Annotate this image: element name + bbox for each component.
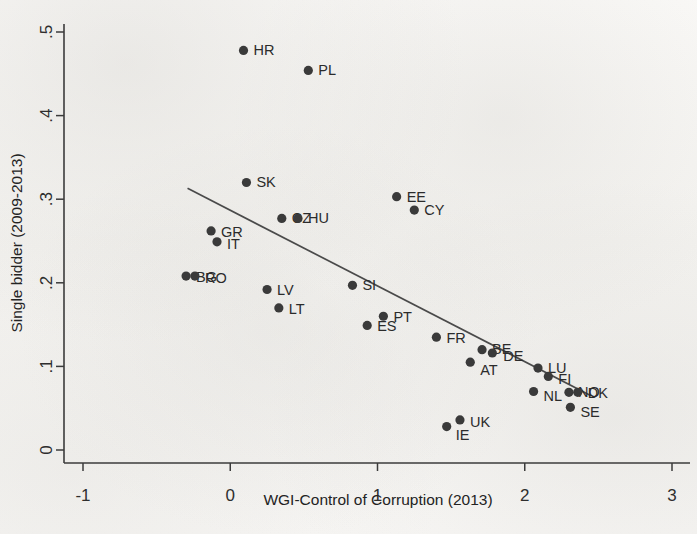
- data-point-label-ie: IE: [456, 427, 470, 443]
- data-point-at[interactable]: [466, 358, 475, 367]
- data-point-label-fr: FR: [446, 330, 465, 346]
- data-point-label-lv: LV: [277, 282, 294, 298]
- data-point-label-pl: PL: [318, 62, 336, 78]
- data-point-label-uk: UK: [470, 414, 490, 430]
- data-point-label-at: AT: [480, 362, 498, 378]
- data-point-be[interactable]: [477, 345, 486, 354]
- data-point-label-si: SI: [362, 277, 376, 293]
- data-point-uk[interactable]: [455, 415, 464, 424]
- y-tick-label: .5: [37, 25, 56, 39]
- data-point-lu[interactable]: [533, 363, 542, 372]
- data-point-es[interactable]: [363, 321, 372, 330]
- y-tick-label: .4: [37, 109, 56, 123]
- plot-canvas: 0.1.2.3.4.5-10123WGI-Control of Corrupti…: [0, 0, 697, 534]
- y-tick-label: .1: [37, 359, 56, 373]
- data-point-label-dk: DK: [588, 385, 608, 401]
- data-point-label-ro: RO: [205, 270, 227, 286]
- data-point-fi[interactable]: [544, 372, 553, 381]
- data-point-pl[interactable]: [304, 66, 313, 75]
- data-point-label-hu: HU: [308, 210, 329, 226]
- data-point-label-nl: NL: [544, 388, 563, 404]
- x-tick-label: 2: [520, 486, 529, 505]
- y-tick-label: .2: [37, 276, 56, 290]
- data-point-gr[interactable]: [207, 226, 216, 235]
- data-point-label-hr: HR: [254, 42, 275, 58]
- data-point-ro[interactable]: [190, 272, 199, 281]
- data-point-label-de: DE: [503, 348, 523, 364]
- data-point-label-it: IT: [227, 236, 240, 252]
- data-point-it[interactable]: [212, 237, 221, 246]
- data-point-label-sk: SK: [256, 174, 276, 190]
- x-axis-title: WGI-Control of Corruption (2013): [263, 491, 492, 508]
- x-tick-label: 0: [226, 486, 235, 505]
- data-point-label-fi: FI: [558, 371, 571, 387]
- y-axis-title: Single bidder (2009-2013): [8, 153, 25, 332]
- data-point-sk[interactable]: [242, 178, 251, 187]
- data-point-no[interactable]: [564, 388, 573, 397]
- data-point-cz[interactable]: [277, 214, 286, 223]
- data-point-label-lt: LT: [289, 301, 305, 317]
- data-point-label-es: ES: [377, 318, 396, 334]
- data-point-nl[interactable]: [529, 387, 538, 396]
- data-point-ie[interactable]: [442, 422, 451, 431]
- data-point-hu[interactable]: [293, 214, 302, 223]
- data-point-cy[interactable]: [410, 205, 419, 214]
- data-point-ee[interactable]: [392, 192, 401, 201]
- data-point-de[interactable]: [488, 348, 497, 357]
- y-tick-label: 0: [37, 445, 56, 454]
- scatter-plot-figure: 0.1.2.3.4.5-10123WGI-Control of Corrupti…: [0, 0, 697, 534]
- data-point-dk[interactable]: [573, 388, 582, 397]
- data-point-hr[interactable]: [239, 46, 248, 55]
- data-point-label-cy: CY: [424, 202, 444, 218]
- data-point-se[interactable]: [566, 403, 575, 412]
- data-point-fr[interactable]: [432, 333, 441, 342]
- y-tick-label: .3: [37, 192, 56, 206]
- regression-fit-line: [188, 188, 591, 395]
- data-point-label-se: SE: [580, 404, 600, 420]
- x-tick-label: 3: [667, 486, 676, 505]
- data-point-bg[interactable]: [181, 272, 190, 281]
- data-point-lt[interactable]: [274, 303, 283, 312]
- data-point-si[interactable]: [348, 281, 357, 290]
- data-point-lv[interactable]: [262, 285, 271, 294]
- x-tick-label: -1: [75, 486, 90, 505]
